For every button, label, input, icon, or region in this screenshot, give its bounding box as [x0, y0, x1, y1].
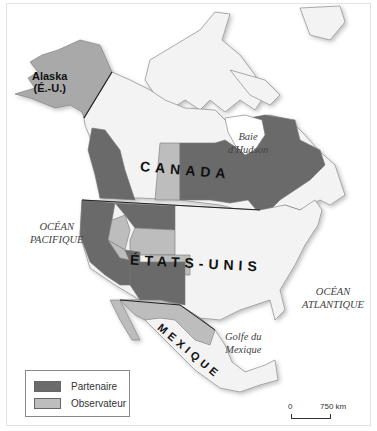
- arctic-islands: [145, 12, 265, 112]
- scale-line: [291, 414, 331, 419]
- legend: Partenaire Observateur: [25, 370, 130, 417]
- legend-item-partner: Partenaire: [34, 380, 117, 392]
- legend-label: Observateur: [71, 398, 126, 409]
- label-atlantic: OCÉAN ATLANTIQUE: [302, 285, 364, 311]
- scale-end: 750 km: [320, 402, 346, 411]
- legend-label: Partenaire: [71, 381, 117, 392]
- observer-swatch: [34, 398, 61, 409]
- label-gulf-of-mexico: Golfe du Mexique: [225, 330, 261, 356]
- label-hudson-bay: Baie d'Hudson: [228, 130, 268, 156]
- north-america-map: [0, 0, 377, 431]
- label-pacific: OCÉAN PACIFIQUE: [30, 220, 83, 246]
- scale-start: 0: [288, 402, 292, 411]
- partner-swatch: [34, 381, 61, 392]
- label-alaska: Alaska (É.-U.): [32, 70, 67, 94]
- legend-item-observer: Observateur: [34, 397, 126, 409]
- scale-bar: 0 750 km: [288, 402, 358, 424]
